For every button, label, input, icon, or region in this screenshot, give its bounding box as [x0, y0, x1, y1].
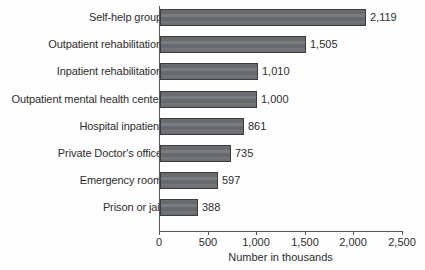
x-axis-tick — [353, 231, 354, 235]
chart-row: Self-help group2,119 — [0, 9, 425, 26]
x-axis-tick-label: 2,500 — [388, 236, 416, 249]
category-label: Emergency room — [80, 172, 162, 189]
x-axis-line — [159, 231, 402, 232]
bar-value-label: 597 — [218, 172, 240, 189]
bar-value-label: 1,000 — [257, 91, 289, 108]
bar — [160, 118, 244, 135]
chart-row: Private Doctor's office735 — [0, 145, 425, 162]
bar — [160, 199, 198, 216]
x-axis-tick-label: 500 — [199, 236, 217, 249]
category-label: Self-help group — [89, 9, 162, 26]
bar-value-label: 1,010 — [258, 63, 290, 80]
chart-row: Outpatient mental health center1,000 — [0, 91, 425, 108]
category-label: Prison or jail — [103, 199, 162, 216]
x-axis-tick-label: 1,500 — [291, 236, 319, 249]
chart-row: Prison or jail388 — [0, 199, 425, 216]
bar-value-label: 1,505 — [306, 36, 338, 53]
y-axis-line — [159, 6, 160, 232]
bar — [160, 91, 257, 108]
category-label: Outpatient mental health center — [12, 91, 162, 108]
bar-value-label: 861 — [244, 118, 266, 135]
bar-chart: Self-help group2,119Outpatient rehabilit… — [0, 0, 425, 270]
bar-value-label: 388 — [198, 199, 220, 216]
chart-row: Emergency room597 — [0, 172, 425, 189]
bar — [160, 145, 231, 162]
x-axis-tick — [159, 231, 160, 235]
x-axis-tick — [305, 231, 306, 235]
x-axis-tick — [402, 231, 403, 235]
bar — [160, 9, 366, 26]
x-axis-tick-label: 1,000 — [242, 236, 270, 249]
chart-row: Outpatient rehabilitation1,505 — [0, 36, 425, 53]
category-label: Outpatient rehabilitation — [48, 36, 162, 53]
bar-value-label: 735 — [231, 145, 253, 162]
x-axis-tick-label: 2,000 — [339, 236, 367, 249]
category-label: Private Doctor's office — [58, 145, 162, 162]
chart-row: Inpatient rehabilitation1,010 — [0, 63, 425, 80]
bar — [160, 36, 306, 53]
chart-rows: Self-help group2,119Outpatient rehabilit… — [0, 0, 425, 229]
chart-row: Hospital inpatient861 — [0, 118, 425, 135]
bar — [160, 172, 218, 189]
x-axis-tick — [208, 231, 209, 235]
x-axis-title: Number in thousands — [159, 251, 402, 263]
x-axis-tick-label: 0 — [156, 236, 162, 249]
bar — [160, 63, 258, 80]
category-label: Hospital inpatient — [79, 118, 162, 135]
x-axis-tick — [256, 231, 257, 235]
bar-value-label: 2,119 — [366, 9, 397, 26]
category-label: Inpatient rehabilitation — [57, 63, 162, 80]
